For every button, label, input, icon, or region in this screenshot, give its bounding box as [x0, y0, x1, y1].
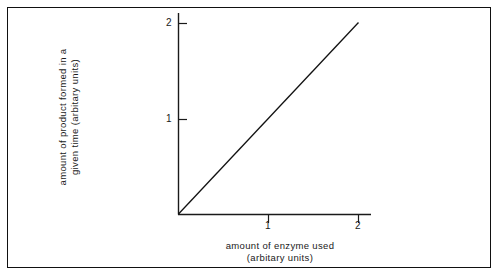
- x-axis-label-line2: (arbitary units): [150, 252, 410, 264]
- x-tick-label-2: 2: [355, 221, 361, 231]
- y-axis-label-line1: amount of product formed in a: [57, 17, 69, 217]
- data-series-line: [179, 23, 359, 215]
- y-axis-label-line2: given time (arbitary units): [69, 17, 81, 217]
- screenshot-root: 2 1 1 2 amount of enzyme used (arbitary …: [0, 0, 500, 277]
- x-axis-label: amount of enzyme used (arbitary units): [150, 240, 410, 264]
- y-tick-label-2: 2: [166, 18, 172, 28]
- x-axis-label-line1: amount of enzyme used: [150, 240, 410, 252]
- y-tick-label-1: 1: [166, 114, 172, 124]
- y-axis-label: amount of product formed in a given time…: [57, 17, 81, 217]
- x-tick-label-1: 1: [265, 221, 271, 231]
